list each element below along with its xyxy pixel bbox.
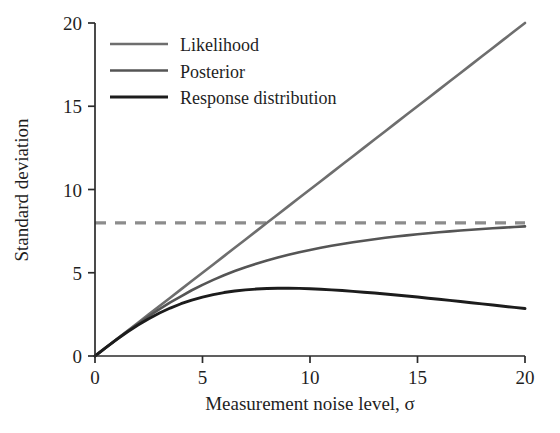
chart-background (0, 0, 560, 433)
y-axis-title: Standard deviation (11, 118, 32, 261)
x-tick-label: 20 (516, 367, 535, 388)
y-tick-label: 15 (63, 96, 82, 117)
legend-label-likelihood: Likelihood (180, 35, 259, 55)
x-tick-label: 5 (198, 367, 208, 388)
y-tick-label: 20 (63, 13, 82, 34)
y-tick-label: 0 (73, 346, 83, 367)
y-tick-label: 5 (73, 263, 83, 284)
y-tick-label: 10 (63, 180, 82, 201)
x-tick-label: 10 (301, 367, 320, 388)
x-tick-label: 15 (408, 367, 427, 388)
chart-figure: 05101520 05101520 Measurement noise leve… (0, 0, 560, 433)
x-axis-title: Measurement noise level, σ (205, 393, 415, 414)
x-tick-label: 0 (90, 367, 100, 388)
legend-label-posterior: Posterior (180, 62, 245, 82)
standard-deviation-vs-noise-chart: 05101520 05101520 Measurement noise leve… (0, 0, 560, 433)
legend-label-response-distribution: Response distribution (180, 88, 337, 108)
